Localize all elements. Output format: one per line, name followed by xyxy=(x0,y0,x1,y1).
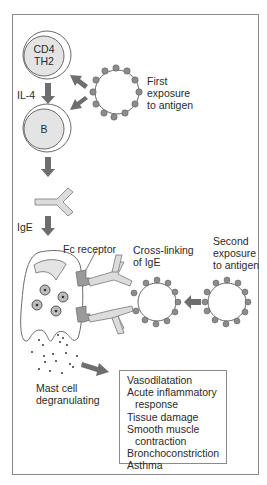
effect-item: Acute inflammatory xyxy=(127,386,226,398)
first-exposure-label: First exposure to antigen xyxy=(147,75,193,111)
mast-cell-line2: degranulating xyxy=(36,394,100,406)
th2-cell-label: CD4 TH2 xyxy=(26,43,62,67)
second-exposure-label: Second exposure to antigen xyxy=(213,235,259,271)
first-antigen xyxy=(90,65,142,120)
first-exposure-line2: exposure xyxy=(147,87,193,99)
th2-line2: TH2 xyxy=(26,55,62,67)
effect-item: Vasodilatation xyxy=(127,374,226,386)
fc-receptor-label: Fc receptor xyxy=(63,243,116,255)
effects-arrow-icon xyxy=(81,362,109,376)
cross-linking-line2: of IgE xyxy=(133,256,194,268)
second-exposure-line3: to antigen xyxy=(213,259,259,271)
second-exposure-arrow-icon xyxy=(184,295,201,309)
first-exposure-line3: to antigen xyxy=(147,99,193,111)
b-to-ige-arrow-icon xyxy=(41,157,55,177)
th2-line1: CD4 xyxy=(26,43,62,55)
bound-ige-lower xyxy=(88,306,133,334)
ige-antibody xyxy=(35,188,73,216)
il4-arrow-icon xyxy=(41,83,55,104)
first-exposure-line1: First xyxy=(147,75,193,87)
effect-item: Bronchoconstriction xyxy=(127,447,226,459)
effects-box: Vasodilatation Acute inflammatory respon… xyxy=(119,370,227,464)
cross-linking-line1: Cross-linking xyxy=(133,244,194,256)
cross-linking-label: Cross-linking of IgE xyxy=(133,244,194,268)
second-exposure-line1: Second xyxy=(213,235,259,247)
effect-item: Asthma xyxy=(127,459,226,471)
effect-item: response xyxy=(127,398,226,410)
effect-item: contraction xyxy=(127,435,226,447)
antigen-to-cells-arrows-icon xyxy=(70,75,88,110)
mast-cell xyxy=(21,251,83,342)
il4-label: IL-4 xyxy=(17,89,35,101)
ige-to-mast-arrow-icon xyxy=(41,216,55,236)
second-antigen xyxy=(202,277,251,327)
b-cell-label: B xyxy=(26,123,62,135)
cross-linked-antigen xyxy=(131,277,181,327)
effect-item: Tissue damage xyxy=(127,411,226,423)
second-exposure-line2: exposure xyxy=(213,247,259,259)
bound-ige-upper xyxy=(88,255,132,286)
effect-item: Smooth muscle xyxy=(127,423,226,435)
ige-label: IgE xyxy=(17,221,33,233)
mast-cell-line1: Mast cell xyxy=(36,382,100,394)
mast-cell-label: Mast cell degranulating xyxy=(36,382,100,406)
released-granules xyxy=(31,334,78,374)
